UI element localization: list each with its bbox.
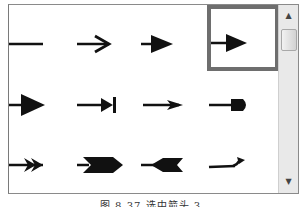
scroll-up-button[interactable]: ▲ — [279, 7, 298, 25]
curved-hook-arrow-icon — [207, 131, 273, 191]
scroll-down-button[interactable]: ▼ — [279, 173, 298, 191]
arrow-option-stealth[interactable] — [141, 71, 207, 131]
arrow-gallery-panel: ▲ ▼ — [8, 4, 299, 194]
arrow-option-triangle-bar[interactable] — [75, 71, 141, 131]
double-chevron-arrow-icon — [9, 131, 75, 191]
line-icon — [9, 10, 75, 70]
large-triangle-arrow-icon — [9, 71, 75, 131]
arrow-option-open[interactable] — [75, 10, 141, 70]
solid-triangle-arrow-icon — [211, 9, 275, 67]
scroll-thumb[interactable] — [281, 29, 297, 51]
arrow-option-large-triangle[interactable] — [9, 71, 75, 131]
figure-caption: 图 8.37 选中箭头 3 — [0, 197, 301, 207]
triangle-bar-arrow-icon — [75, 71, 141, 131]
arrow-option-double-chevron[interactable] — [9, 131, 75, 191]
open-arrow-icon — [75, 10, 141, 70]
arrow-option-round-head[interactable] — [207, 71, 273, 131]
solid-triangle-arrow-icon — [141, 10, 207, 70]
wide-notched-arrow-icon — [75, 131, 141, 191]
arrow-option-solid-triangle[interactable] — [141, 10, 207, 70]
stealth-arrow-icon — [141, 71, 207, 131]
arrow-option-selected[interactable] — [207, 5, 279, 71]
arrow-option-reverse-notched[interactable] — [141, 131, 207, 191]
round-head-arrow-icon — [207, 71, 273, 131]
arrow-option-curved-hook[interactable] — [207, 131, 273, 191]
arrow-option-wide-notched[interactable] — [75, 131, 141, 191]
arrow-option-line[interactable] — [9, 10, 75, 70]
vertical-scrollbar[interactable]: ▲ ▼ — [278, 5, 298, 193]
arrow-grid — [9, 5, 279, 193]
reverse-notched-arrow-icon — [141, 131, 207, 191]
